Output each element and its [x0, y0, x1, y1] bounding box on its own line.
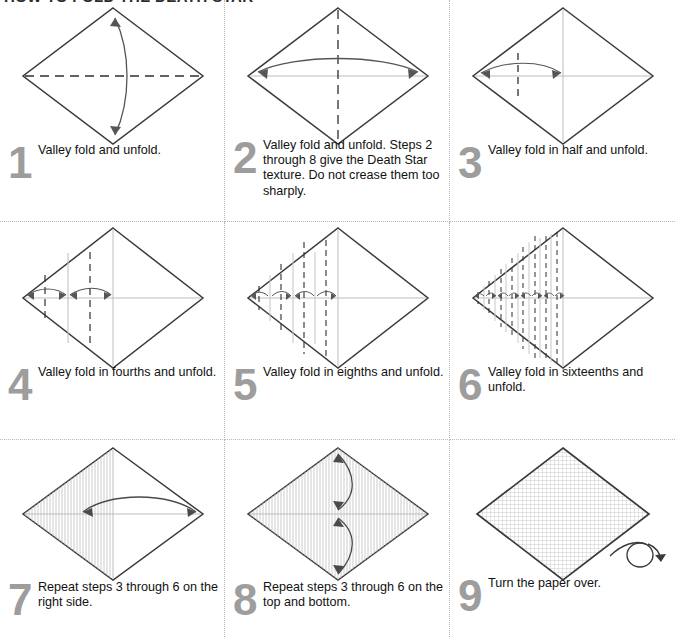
step-number-4: 4: [8, 365, 32, 405]
step-text-9: Turn the paper over.: [488, 576, 669, 591]
caption-step-1: 1 Valley fold and unfold.: [8, 143, 219, 158]
step-panel-2: 2 Valley fold and unfold. Steps 2 throug…: [225, 0, 450, 222]
step-panel-1: 1 Valley fold and unfold.: [0, 0, 225, 222]
diagram-step-9: [450, 440, 675, 588]
step-number-8: 8: [233, 580, 257, 620]
step-text-3: Valley fold in half and unfold.: [488, 143, 669, 158]
step-number-9: 9: [458, 576, 482, 616]
step-panel-8: 8 Repeat steps 3 through 6 on the top an…: [225, 440, 450, 637]
step-text-2: Valley fold and unfold. Steps 2 through …: [263, 138, 444, 199]
step-panel-7: 7 Repeat steps 3 through 6 on the right …: [0, 440, 225, 637]
step-number-7: 7: [8, 580, 32, 620]
diagram-step-8: [225, 440, 450, 588]
caption-step-5: 5 Valley fold in eighths and unfold.: [233, 365, 444, 380]
step-text-5: Valley fold in eighths and unfold.: [263, 365, 444, 380]
caption-step-3: 3 Valley fold in half and unfold.: [458, 143, 669, 158]
caption-step-4: 4 Valley fold in fourths and unfold.: [8, 365, 219, 380]
caption-step-2: 2 Valley fold and unfold. Steps 2 throug…: [233, 138, 444, 199]
diagram-step-3: [450, 0, 675, 150]
step-panel-4: 4 Valley fold in fourths and unfold.: [0, 222, 225, 440]
step-panel-6: 6 Valley fold in sixteenths and unfold.: [450, 222, 675, 440]
step-panel-5: 5 Valley fold in eighths and unfold.: [225, 222, 450, 440]
step-number-6: 6: [458, 365, 482, 405]
instruction-sheet: HOW TO FOLD THE DEATH STAR: [0, 0, 675, 637]
step-number-2: 2: [233, 138, 257, 178]
diagram-step-1: [0, 0, 225, 150]
paper-outline-textured: [477, 448, 649, 580]
diagram-step-5: [225, 222, 450, 374]
step-text-1: Valley fold and unfold.: [38, 143, 219, 158]
step-number-5: 5: [233, 365, 257, 405]
diagram-step-6: [450, 222, 675, 374]
step-panel-3: 3 Valley fold in half and unfold.: [450, 0, 675, 222]
diagram-step-4: [0, 222, 225, 374]
step-panel-9: 9 Turn the paper over.: [450, 440, 675, 637]
caption-step-8: 8 Repeat steps 3 through 6 on the top an…: [233, 580, 444, 610]
caption-step-9: 9 Turn the paper over.: [458, 576, 669, 591]
step-text-6: Valley fold in sixteenths and unfold.: [488, 365, 669, 395]
diagram-step-7: [0, 440, 225, 588]
step-text-8: Repeat steps 3 through 6 on the top and …: [263, 580, 444, 610]
caption-step-7: 7 Repeat steps 3 through 6 on the right …: [8, 580, 219, 610]
step-number-1: 1: [8, 143, 32, 183]
caption-step-6: 6 Valley fold in sixteenths and unfold.: [458, 365, 669, 395]
step-number-3: 3: [458, 143, 482, 183]
step-text-7: Repeat steps 3 through 6 on the right si…: [38, 580, 219, 610]
diagram-step-2: [225, 0, 450, 150]
steps-grid: 1 Valley fold and unfold.: [0, 0, 675, 637]
step-text-4: Valley fold in fourths and unfold.: [38, 365, 219, 380]
turn-over-icon: [610, 543, 666, 568]
